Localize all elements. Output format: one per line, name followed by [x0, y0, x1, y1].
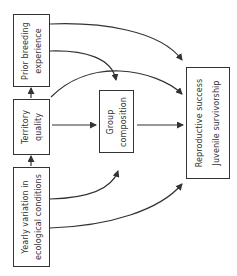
edge-yearly-to-repro — [50, 184, 182, 228]
edge-yearly-to-group — [50, 171, 118, 199]
node-territory-quality: Territory quality — [13, 99, 50, 155]
node-label-line: Reproductive success — [191, 79, 208, 168]
node-label-line: Juvenile survivorship — [208, 79, 225, 168]
node-reproductive-success: Reproductive success Juvenile survivorsh… — [186, 67, 230, 179]
node-label-line: composition — [117, 97, 130, 147]
node-label-line: experience — [32, 22, 45, 80]
node-prior-breeding-experience: Prior breeding experience — [13, 14, 50, 87]
edge-prior-to-repro — [50, 24, 182, 60]
node-label-line: quality — [32, 110, 45, 144]
node-yearly-variation: Yearly variation in ecological condition… — [13, 167, 50, 267]
node-label-line: ecological conditions — [32, 174, 45, 260]
node-label-line: Group — [104, 97, 117, 147]
node-label-line: Territory — [19, 110, 32, 144]
node-label-line: Yearly variation in — [19, 174, 32, 260]
edge-prior-to-group — [50, 51, 116, 80]
node-label-line: Prior breeding — [19, 22, 32, 80]
node-group-composition: Group composition — [99, 90, 134, 153]
